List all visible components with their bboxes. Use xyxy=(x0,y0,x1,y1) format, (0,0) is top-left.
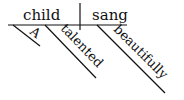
modifier-word-a: A xyxy=(26,23,44,42)
subject-word: child xyxy=(23,6,61,24)
modifier-word-beautifully: beautifully xyxy=(111,22,172,83)
sentence-diagram: child sang A talented beautifully xyxy=(0,0,184,100)
predicate-word: sang xyxy=(92,6,128,24)
